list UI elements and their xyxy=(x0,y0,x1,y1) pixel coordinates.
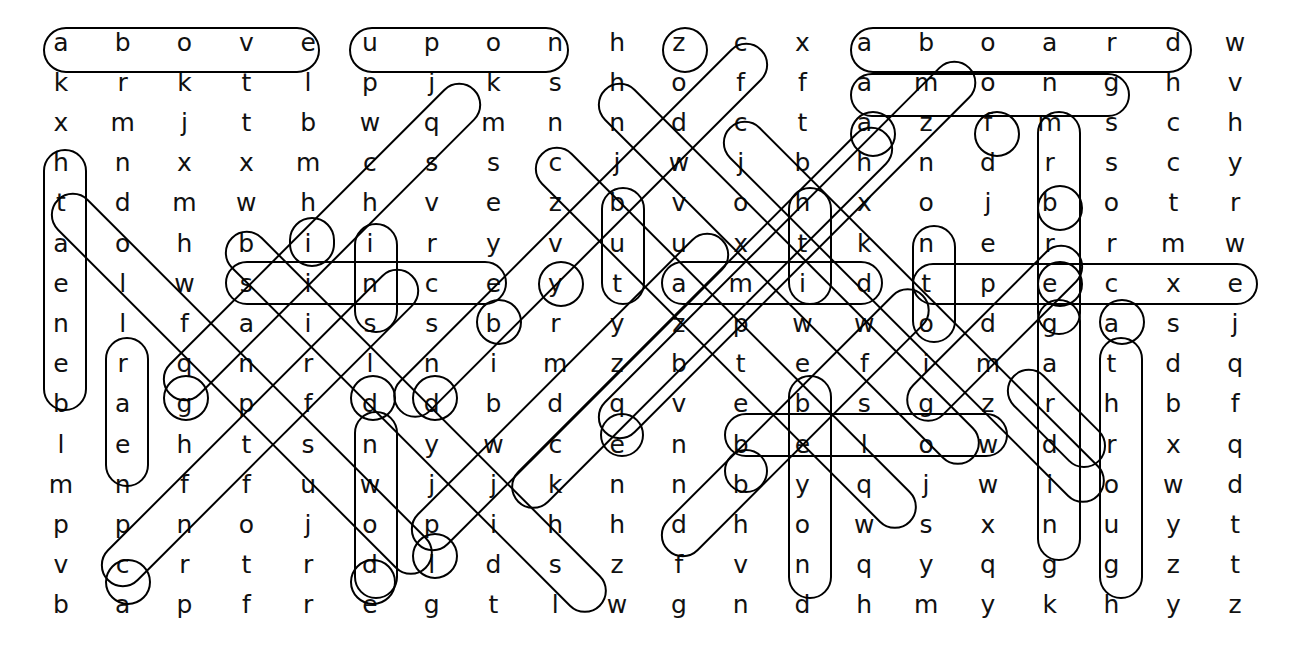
grid-cell-r12-c9[interactable]: k xyxy=(524,464,586,504)
grid-cell-r7-c8[interactable]: e xyxy=(463,263,525,303)
grid-cell-r9-c10[interactable]: z xyxy=(586,344,648,384)
grid-cell-r3-c9[interactable]: n xyxy=(524,102,586,142)
grid-cell-r1-c4[interactable]: v xyxy=(215,22,277,62)
grid-cell-r10-c6[interactable]: d xyxy=(339,384,401,424)
grid-cell-r4-c11[interactable]: w xyxy=(648,143,710,183)
grid-cell-r5-c11[interactable]: v xyxy=(648,183,710,223)
grid-cell-r10-c7[interactable]: d xyxy=(401,384,463,424)
grid-cell-r15-c11[interactable]: g xyxy=(648,585,710,625)
grid-cell-r1-c11[interactable]: z xyxy=(648,22,710,62)
grid-cell-r13-c9[interactable]: h xyxy=(524,504,586,544)
grid-cell-r14-c12[interactable]: v xyxy=(710,545,772,585)
grid-cell-r6-c16[interactable]: e xyxy=(957,223,1019,263)
grid-cell-r13-c17[interactable]: n xyxy=(1019,504,1081,544)
grid-cell-r9-c2[interactable]: r xyxy=(92,344,154,384)
grid-cell-r15-c3[interactable]: p xyxy=(154,585,216,625)
grid-cell-r4-c10[interactable]: j xyxy=(586,143,648,183)
grid-cell-r13-c8[interactable]: i xyxy=(463,504,525,544)
grid-cell-r9-c9[interactable]: m xyxy=(524,344,586,384)
grid-cell-r9-c14[interactable]: f xyxy=(833,344,895,384)
grid-cell-r12-c16[interactable]: w xyxy=(957,464,1019,504)
grid-cell-r15-c19[interactable]: y xyxy=(1142,585,1204,625)
grid-cell-r7-c7[interactable]: c xyxy=(401,263,463,303)
grid-cell-r5-c12[interactable]: o xyxy=(710,183,772,223)
grid-cell-r5-c18[interactable]: o xyxy=(1081,183,1143,223)
grid-cell-r8-c17[interactable]: g xyxy=(1019,303,1081,343)
grid-cell-r12-c8[interactable]: j xyxy=(463,464,525,504)
grid-cell-r3-c4[interactable]: t xyxy=(215,102,277,142)
grid-cell-r10-c9[interactable]: d xyxy=(524,384,586,424)
grid-cell-r11-c18[interactable]: r xyxy=(1081,424,1143,464)
grid-cell-r2-c20[interactable]: v xyxy=(1204,62,1266,102)
grid-cell-r15-c8[interactable]: t xyxy=(463,585,525,625)
grid-cell-r12-c10[interactable]: n xyxy=(586,464,648,504)
grid-cell-r15-c15[interactable]: m xyxy=(895,585,957,625)
grid-cell-r5-c4[interactable]: w xyxy=(215,183,277,223)
grid-cell-r3-c13[interactable]: t xyxy=(772,102,834,142)
grid-cell-r8-c16[interactable]: d xyxy=(957,303,1019,343)
grid-cell-r14-c18[interactable]: g xyxy=(1081,545,1143,585)
grid-cell-r9-c18[interactable]: t xyxy=(1081,344,1143,384)
grid-cell-r10-c1[interactable]: b xyxy=(30,384,92,424)
grid-cell-r3-c17[interactable]: m xyxy=(1019,102,1081,142)
grid-cell-r12-c11[interactable]: n xyxy=(648,464,710,504)
grid-cell-r1-c12[interactable]: c xyxy=(710,22,772,62)
grid-cell-r14-c5[interactable]: r xyxy=(277,545,339,585)
grid-cell-r12-c18[interactable]: o xyxy=(1081,464,1143,504)
grid-cell-r1-c5[interactable]: e xyxy=(277,22,339,62)
grid-cell-r6-c12[interactable]: x xyxy=(710,223,772,263)
grid-cell-r7-c10[interactable]: t xyxy=(586,263,648,303)
grid-cell-r6-c9[interactable]: v xyxy=(524,223,586,263)
grid-cell-r12-c12[interactable]: b xyxy=(710,464,772,504)
grid-cell-r11-c13[interactable]: e xyxy=(772,424,834,464)
grid-cell-r13-c2[interactable]: p xyxy=(92,504,154,544)
grid-cell-r15-c6[interactable]: e xyxy=(339,585,401,625)
grid-cell-r2-c4[interactable]: t xyxy=(215,62,277,102)
grid-cell-r14-c16[interactable]: q xyxy=(957,545,1019,585)
grid-cell-r8-c8[interactable]: b xyxy=(463,303,525,343)
grid-cell-r13-c1[interactable]: p xyxy=(30,504,92,544)
grid-cell-r1-c9[interactable]: n xyxy=(524,22,586,62)
grid-cell-r15-c17[interactable]: k xyxy=(1019,585,1081,625)
grid-cell-r12-c17[interactable]: i xyxy=(1019,464,1081,504)
grid-cell-r7-c1[interactable]: e xyxy=(30,263,92,303)
grid-cell-r4-c7[interactable]: s xyxy=(401,143,463,183)
grid-cell-r15-c20[interactable]: z xyxy=(1204,585,1266,625)
grid-cell-r12-c13[interactable]: y xyxy=(772,464,834,504)
grid-cell-r10-c17[interactable]: r xyxy=(1019,384,1081,424)
grid-cell-r11-c16[interactable]: w xyxy=(957,424,1019,464)
grid-cell-r10-c13[interactable]: b xyxy=(772,384,834,424)
grid-cell-r6-c14[interactable]: k xyxy=(833,223,895,263)
grid-cell-r14-c7[interactable]: l xyxy=(401,545,463,585)
grid-cell-r8-c1[interactable]: n xyxy=(30,303,92,343)
grid-cell-r3-c6[interactable]: w xyxy=(339,102,401,142)
grid-cell-r5-c15[interactable]: o xyxy=(895,183,957,223)
grid-cell-r5-c16[interactable]: j xyxy=(957,183,1019,223)
grid-cell-r1-c10[interactable]: h xyxy=(586,22,648,62)
grid-cell-r10-c4[interactable]: p xyxy=(215,384,277,424)
grid-cell-r14-c8[interactable]: d xyxy=(463,545,525,585)
grid-cell-r13-c10[interactable]: h xyxy=(586,504,648,544)
grid-cell-r1-c20[interactable]: w xyxy=(1204,22,1266,62)
grid-cell-r12-c14[interactable]: q xyxy=(833,464,895,504)
grid-cell-r2-c3[interactable]: k xyxy=(154,62,216,102)
grid-cell-r15-c12[interactable]: n xyxy=(710,585,772,625)
grid-cell-r1-c8[interactable]: o xyxy=(463,22,525,62)
grid-cell-r11-c17[interactable]: d xyxy=(1019,424,1081,464)
grid-cell-r8-c11[interactable]: z xyxy=(648,303,710,343)
grid-cell-r2-c17[interactable]: n xyxy=(1019,62,1081,102)
grid-cell-r13-c4[interactable]: o xyxy=(215,504,277,544)
grid-cell-r4-c17[interactable]: r xyxy=(1019,143,1081,183)
grid-cell-r10-c15[interactable]: g xyxy=(895,384,957,424)
grid-cell-r10-c18[interactable]: h xyxy=(1081,384,1143,424)
grid-cell-r13-c12[interactable]: h xyxy=(710,504,772,544)
grid-cell-r7-c5[interactable]: i xyxy=(277,263,339,303)
grid-cell-r5-c1[interactable]: t xyxy=(30,183,92,223)
grid-cell-r9-c4[interactable]: n xyxy=(215,344,277,384)
grid-cell-r13-c19[interactable]: y xyxy=(1142,504,1204,544)
grid-cell-r4-c9[interactable]: c xyxy=(524,143,586,183)
grid-cell-r2-c5[interactable]: l xyxy=(277,62,339,102)
grid-cell-r2-c8[interactable]: k xyxy=(463,62,525,102)
grid-cell-r9-c5[interactable]: r xyxy=(277,344,339,384)
grid-cell-r6-c18[interactable]: r xyxy=(1081,223,1143,263)
